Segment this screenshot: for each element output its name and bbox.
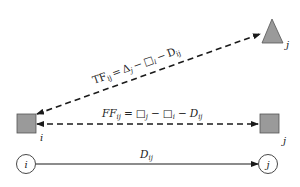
triangle-node-j-label: j: [284, 39, 289, 50]
square-node-i-label: i: [40, 132, 43, 143]
triangle-node-j: [262, 19, 283, 43]
circle-node-i-label: i: [24, 159, 27, 170]
duration-label: Dij: [139, 148, 154, 162]
total-float-edge: [37, 34, 260, 114]
svg-text:TFij=Δj−□i−Dij: TFij=Δj−□i−Dij: [91, 44, 182, 88]
free-float-label: FFij=□j−□i−Dij: [101, 107, 203, 121]
square-node-j: [260, 114, 279, 133]
square-node-j-label: j: [281, 135, 286, 146]
square-node-i: [17, 114, 36, 133]
total-float-label: TFij=Δj−□i−Dij: [91, 44, 182, 88]
float-diagram: j i j i j TFij=Δj−□i−Dij FFij=□j−□i−Dij …: [0, 0, 300, 187]
